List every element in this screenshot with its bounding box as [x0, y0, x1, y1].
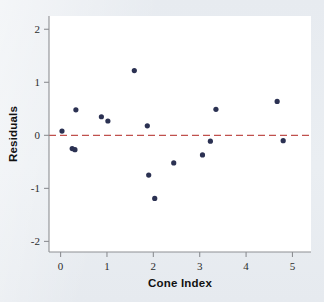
axes [49, 16, 311, 252]
data-points [59, 68, 285, 201]
x-tick-label: 3 [197, 260, 203, 272]
data-point [132, 68, 137, 73]
data-point [152, 196, 157, 201]
y-axis-title: Residuals [7, 106, 19, 162]
data-point [99, 114, 104, 119]
y-axis-ticks: 210-1-2 [31, 23, 49, 247]
data-point [213, 107, 218, 112]
y-tick-label: 1 [35, 76, 41, 88]
data-point [145, 123, 150, 128]
x-tick-label: 4 [243, 260, 249, 272]
data-point [59, 128, 64, 133]
data-point [105, 118, 110, 123]
data-point [171, 160, 176, 165]
scatter-chart: 012345 210-1-2 Cone Index Residuals [0, 0, 324, 302]
data-point [275, 99, 280, 104]
data-point [200, 152, 205, 157]
data-point [146, 173, 151, 178]
data-point [281, 138, 286, 143]
data-point [72, 147, 77, 152]
residual-plot-figure: 012345 210-1-2 Cone Index Residuals [0, 0, 324, 302]
x-tick-label: 5 [290, 260, 296, 272]
y-tick-label: 0 [35, 129, 41, 141]
x-tick-label: 2 [151, 260, 157, 272]
x-axis-ticks: 012345 [58, 252, 296, 272]
x-axis-title: Cone Index [148, 277, 212, 289]
x-tick-label: 1 [104, 260, 110, 272]
y-tick-label: -1 [31, 182, 40, 194]
data-point [73, 107, 78, 112]
y-tick-label: -2 [31, 235, 40, 247]
x-tick-label: 0 [58, 260, 64, 272]
data-point [208, 139, 213, 144]
y-tick-label: 2 [35, 23, 41, 35]
